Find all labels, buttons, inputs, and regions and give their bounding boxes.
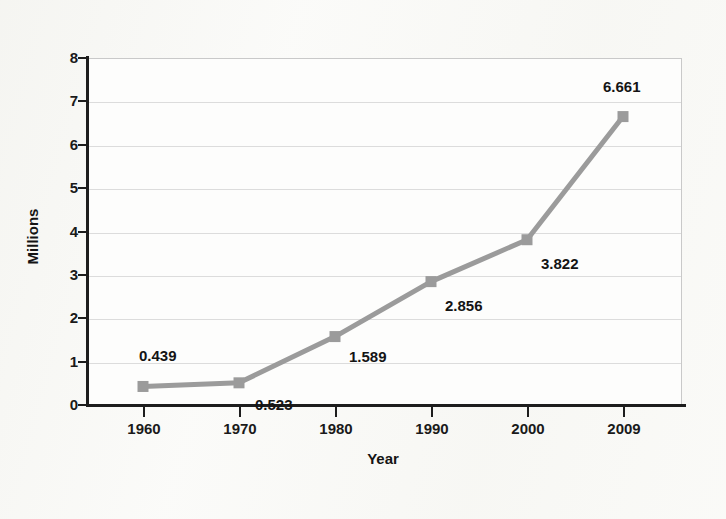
x-tick-label-1990: 1990	[397, 420, 467, 437]
x-tick-mark-2009	[623, 407, 625, 417]
y-tick-labels: 8 7 6 5 4 3 2 1 0	[40, 0, 78, 519]
data-point-label: 2.856	[445, 297, 483, 314]
y-tick-mark-7	[78, 100, 87, 102]
chart-figure: 8 7 6 5 4 3 2 1 0 1960 1970 1980 1990 20…	[0, 0, 726, 519]
y-tick-label-6: 6	[54, 136, 78, 153]
y-tick-mark-0	[78, 404, 87, 406]
x-tick-mark-1970	[239, 407, 241, 417]
data-point-label: 6.661	[603, 78, 641, 95]
y-tick-mark-2	[78, 317, 87, 319]
y-tick-mark-5	[78, 187, 87, 189]
x-tick-label-2009: 2009	[589, 420, 659, 437]
x-tick-mark-1980	[335, 407, 337, 417]
y-tick-mark-1	[78, 361, 87, 363]
y-tick-mark-8	[78, 57, 87, 59]
x-tick-label-2000: 2000	[493, 420, 563, 437]
gridline-7	[88, 102, 681, 103]
y-tick-label-7: 7	[54, 92, 78, 109]
gridline-2	[88, 319, 681, 320]
y-tick-label-1: 1	[54, 353, 78, 370]
gridline-4	[88, 233, 681, 234]
gridline-6	[88, 146, 681, 147]
y-axis-title: Millions	[24, 182, 41, 292]
x-tick-mark-2000	[527, 407, 529, 417]
x-axis-line	[86, 404, 686, 407]
gridline-5	[88, 189, 681, 190]
y-tick-label-8: 8	[54, 49, 78, 66]
x-tick-label-1960: 1960	[109, 420, 179, 437]
data-point-label: 0.523	[255, 396, 293, 413]
y-tick-mark-3	[78, 274, 87, 276]
y-tick-label-4: 4	[54, 223, 78, 240]
data-point-label: 3.822	[541, 255, 579, 272]
x-tick-mark-1990	[431, 407, 433, 417]
x-tick-mark-1960	[143, 407, 145, 417]
y-tick-label-2: 2	[54, 309, 78, 326]
y-tick-mark-6	[78, 144, 87, 146]
data-point-label: 1.589	[349, 348, 387, 365]
x-tick-label-1970: 1970	[205, 420, 275, 437]
y-tick-label-5: 5	[54, 179, 78, 196]
y-tick-mark-4	[78, 231, 87, 233]
x-tick-label-1980: 1980	[301, 420, 371, 437]
y-tick-label-3: 3	[54, 266, 78, 283]
data-point-label: 0.439	[139, 347, 177, 364]
y-tick-label-0: 0	[54, 396, 78, 413]
gridline-3	[88, 276, 681, 277]
x-axis-title: Year	[348, 450, 418, 467]
